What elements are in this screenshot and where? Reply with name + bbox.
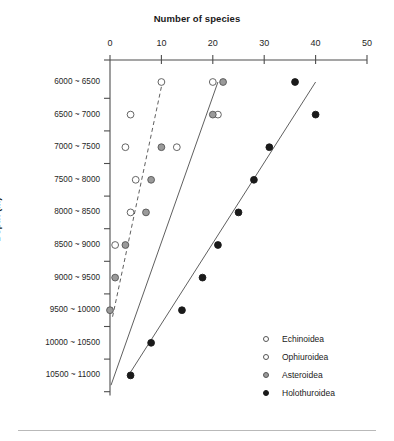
legend-marker-icon (263, 372, 277, 378)
legend-item-ophiuroidea[interactable]: Ophiuroidea (263, 348, 335, 366)
datapoint-echinoidea-row3 (132, 176, 139, 183)
datapoint-holothuroidea-row7 (179, 307, 186, 314)
datapoint-echinoidea-row0 (158, 79, 165, 86)
datapoint-holothuroidea-row0 (292, 79, 299, 86)
datapoint-holothuroidea-row1 (312, 111, 319, 118)
datapoint-echinoidea-row4 (127, 209, 134, 216)
legend-item-holothuroidea[interactable]: Holothuroidea (263, 384, 335, 402)
datapoint-echinoidea-row2 (173, 144, 180, 151)
open-circle-icon (263, 336, 269, 342)
datapoint-echinoidea-row5 (112, 242, 119, 249)
bottom-divider (18, 430, 376, 431)
datapoint-asteroidea-row3 (148, 176, 155, 183)
datapoint-asteroidea-row4 (143, 209, 150, 216)
datapoint-asteroidea-row0 (220, 79, 227, 86)
datapoint-holothuroidea-row4 (235, 209, 242, 216)
legend-marker-icon (263, 354, 277, 360)
legend-marker-icon (263, 336, 277, 342)
chart-figure: Number of species Depth (m) 01020304050 … (0, 0, 394, 441)
datapoint-holothuroidea-row6 (199, 274, 206, 281)
legend-marker-icon (263, 390, 277, 396)
datapoint-holothuroidea-row8 (148, 339, 155, 346)
trendline-echinoidea (113, 82, 163, 317)
datapoint-holothuroidea-row2 (266, 144, 273, 151)
datapoint-asteroidea-row2 (158, 144, 165, 151)
datapoint-echinoidea-row1 (127, 111, 134, 118)
datapoint-asteroidea-row6 (112, 274, 119, 281)
chart-legend: EchinoideaOphiuroideaAsteroideaHolothuro… (263, 330, 335, 402)
datapoint-holothuroidea-row9 (127, 372, 134, 379)
datapoint-asteroidea-row5 (122, 242, 129, 249)
legend-item-label: Asteroidea (277, 370, 323, 380)
datapoint-ophiuroidea-row0 (209, 79, 216, 86)
gray-circle-icon (263, 372, 269, 378)
datapoint-asteroidea-row1 (209, 111, 216, 118)
datapoint-holothuroidea-row5 (215, 242, 222, 249)
datapoint-asteroidea-row7 (107, 307, 114, 314)
legend-item-asteroidea[interactable]: Asteroidea (263, 366, 335, 384)
datapoint-ophiuroidea-row2 (122, 144, 129, 151)
datapoint-holothuroidea-row3 (251, 176, 258, 183)
filled-circle-icon (263, 390, 269, 396)
trendline-asteroidea (111, 82, 218, 385)
open-circle-icon (263, 354, 269, 360)
legend-item-label: Holothuroidea (277, 388, 335, 398)
legend-item-echinoidea[interactable]: Echinoidea (263, 330, 335, 348)
legend-item-label: Echinoidea (277, 334, 324, 344)
legend-item-label: Ophiuroidea (277, 352, 328, 362)
